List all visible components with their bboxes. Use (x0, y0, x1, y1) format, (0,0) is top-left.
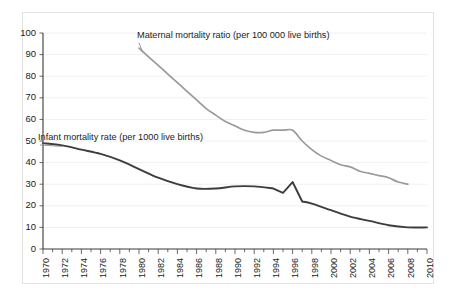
y-tick-label: 40 (25, 156, 36, 167)
gridlines (43, 33, 427, 227)
y-tick-label: 60 (25, 113, 36, 124)
y-tick-label: 20 (25, 199, 36, 210)
x-tick-label: 2008 (406, 258, 416, 278)
x-tick-label: 1982 (156, 258, 166, 278)
chart-figure: 0102030405060708090100 19701972197419761… (0, 0, 451, 302)
x-tick-label: 1996 (290, 258, 300, 278)
x-tick-label: 2002 (348, 258, 358, 278)
y-tick-label: 10 (25, 221, 36, 232)
y-tick-label: 70 (25, 91, 36, 102)
x-tick-label: 1984 (175, 258, 185, 278)
maternal-series-label: Maternal mortality ratio (per 100 000 li… (137, 30, 330, 40)
x-axis-labels: 1970197219741976197819801982198419861988… (41, 258, 435, 278)
y-tick-label: 50 (25, 135, 36, 146)
series-line-maternal (139, 48, 408, 184)
series-line-infant (43, 143, 427, 227)
x-tick-label: 1986 (194, 258, 204, 278)
x-tick-label: 1994 (271, 258, 281, 278)
y-tick-label: 80 (25, 70, 36, 81)
y-tick-label: 30 (25, 178, 36, 189)
x-tick-label: 1978 (118, 258, 128, 278)
x-axis-ticks (43, 249, 427, 254)
x-tick-label: 2006 (386, 258, 396, 278)
x-tick-label: 1972 (60, 258, 70, 278)
x-tick-label: 1980 (137, 258, 147, 278)
x-tick-label: 1970 (41, 258, 51, 278)
x-tick-label: 1974 (79, 258, 89, 278)
x-tick-label: 1992 (252, 258, 262, 278)
x-tick-label: 1976 (98, 258, 108, 278)
y-tick-label: 100 (20, 27, 36, 38)
y-tick-label: 0 (31, 243, 36, 254)
y-tick-label: 90 (25, 48, 36, 59)
x-tick-label: 1998 (310, 258, 320, 278)
y-axis-labels: 0102030405060708090100 (20, 27, 36, 254)
line-chart: 0102030405060708090100 19701972197419761… (0, 0, 451, 302)
x-tick-label: 2010 (425, 258, 435, 278)
x-tick-label: 1988 (214, 258, 224, 278)
x-tick-label: 2004 (367, 258, 377, 278)
x-tick-label: 2000 (329, 258, 339, 278)
x-tick-label: 1990 (233, 258, 243, 278)
infant-series-label: Infant mortality rate (per 1000 live bir… (38, 132, 203, 142)
